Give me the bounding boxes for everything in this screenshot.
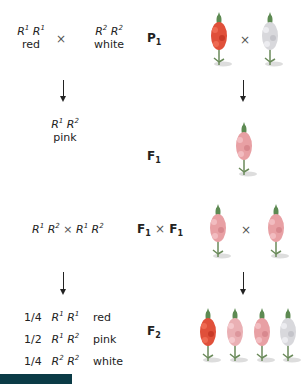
parent-left-phenotype: red [6, 38, 56, 51]
f2-ratio-list: 1/4 R1 R1 red 1/2 R1 R2 pink 1/4 R2 R2 w… [24, 303, 123, 369]
parent-right-phenotype: white [84, 38, 134, 51]
pink-snapdragon-icon [232, 118, 264, 178]
generation-p1-label: P1 [147, 31, 161, 47]
arrow-down-icon [243, 80, 244, 97]
cross-symbol: × [241, 223, 251, 237]
arrow-down-icon [63, 80, 64, 97]
pink-snapdragon-icon [206, 200, 238, 260]
generation-f1-label: F1 [147, 149, 161, 165]
pink-snapdragon-icon [223, 304, 251, 364]
white-snapdragon-icon [258, 8, 290, 68]
pink-snapdragon-icon [250, 304, 278, 364]
white-snapdragon-icon [276, 304, 304, 364]
cross-symbol: × [240, 33, 250, 47]
parent-left-genotype: R1 R1 red [6, 24, 56, 51]
accent-bar [0, 374, 72, 384]
f1-cross-genotypes: R1 R2 × R1 R2 [32, 222, 104, 236]
f1-phenotype: pink [40, 131, 90, 144]
f2-ratio-row: 1/2 R1 R2 pink [24, 325, 123, 347]
f1-genotype: R1 R2 pink [40, 117, 90, 144]
red-snapdragon-icon [196, 304, 224, 364]
generation-f2-label: F2 [147, 324, 161, 340]
f2-ratio-row: 1/4 R2 R2 white [24, 347, 123, 369]
f2-ratio-row: 1/4 R1 R1 red [24, 303, 123, 325]
pink-snapdragon-icon [264, 200, 296, 260]
red-snapdragon-icon [207, 8, 239, 68]
generation-f1xf1-label: F1 × F1 [137, 222, 183, 238]
cross-symbol: × [56, 32, 66, 46]
parent-right-genotype: R2 R2 white [84, 24, 134, 51]
arrow-down-icon [63, 272, 64, 290]
arrow-down-icon [243, 272, 244, 290]
